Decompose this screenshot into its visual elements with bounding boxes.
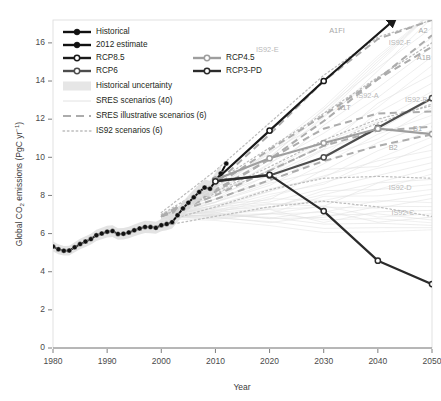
y-tick-label: 12 [36, 113, 46, 123]
sres-ensemble-line [161, 108, 432, 219]
data-point-marker [186, 200, 191, 205]
legend-label: SRES illustrative scenarios (6) [96, 111, 207, 120]
data-point-marker [94, 233, 99, 238]
data-point-marker [99, 231, 104, 236]
legend-swatch-marker [204, 68, 209, 73]
data-point-marker [115, 231, 120, 236]
scenario-node-marker [321, 208, 326, 213]
data-point-marker [208, 186, 213, 191]
data-point-marker [132, 228, 137, 233]
scenario-node-marker [375, 126, 380, 131]
legend-label: SRES scenarios (40) [96, 96, 173, 105]
x-axis-title: Year [233, 382, 250, 392]
data-point-marker [197, 190, 202, 195]
annotation-is92-e: IS92-E [256, 45, 279, 54]
data-point-marker [78, 242, 83, 247]
y-tick-label: 4 [40, 266, 45, 276]
scenario-node-marker [429, 282, 434, 287]
legend-label: RCP4.5 [226, 53, 255, 62]
annotation-is92-d: IS92-D [389, 183, 412, 192]
data-point-marker [159, 223, 164, 228]
x-tick-label: 2050 [423, 356, 441, 366]
legend-label: RCP8.5 [96, 53, 125, 62]
scenario-node-marker [429, 131, 434, 136]
y-tick-label: 14 [36, 75, 46, 85]
x-tick-label: 2000 [152, 356, 171, 366]
x-tick-label: 2020 [260, 356, 279, 366]
data-point-marker [83, 239, 88, 244]
legend-label: Historical [96, 27, 130, 36]
legend-item-historical-uncertainty[interactable]: Historical uncertainty [63, 81, 173, 90]
y-tick-label: 0 [40, 342, 45, 352]
data-point-marker [72, 245, 77, 250]
figure-co2-emissions-scenarios: 0246810121416198019902000201020202030204… [0, 0, 441, 401]
annotation-b2: B2 [389, 143, 398, 152]
legend-item-rcp4-5[interactable]: RCP4.5 [193, 53, 255, 62]
legend-item-rcp3-pd[interactable]: RCP3-PD [193, 66, 262, 75]
data-point-marker [110, 229, 115, 234]
annotation-a1t: A1T [337, 103, 351, 112]
legend-swatch-band [63, 82, 91, 91]
scenario-node-marker [321, 78, 326, 83]
scenario-node-marker [267, 128, 272, 133]
annotation-is92-c: IS92-C [391, 208, 415, 217]
scenario-node-marker [429, 96, 434, 101]
legend-item-historical[interactable]: Historical [63, 27, 130, 36]
annotation-b1: B1 [413, 124, 422, 133]
y-tick-label: 2 [40, 304, 45, 314]
legend-item-is92-scenarios-6-[interactable]: IS92 scenarios (6) [63, 126, 163, 135]
annotation-a1b: A1B [417, 53, 431, 62]
legend-swatch-marker [74, 42, 80, 48]
y-tick-label: 16 [36, 37, 46, 47]
x-tick-label: 2040 [368, 356, 387, 366]
data-point-marker [51, 244, 56, 249]
data-point-marker [180, 206, 185, 211]
data-point-marker [56, 247, 61, 252]
annotation-is92-a: IS92-A [356, 91, 379, 100]
data-point-marker [137, 226, 142, 231]
y-tick-label: 10 [36, 152, 46, 162]
x-tick-label: 2030 [314, 356, 333, 366]
y-tick-label: 8 [40, 190, 45, 200]
legend-swatch-marker [74, 29, 80, 35]
x-tick-label: 1990 [98, 356, 117, 366]
legend-swatch-marker [74, 68, 79, 73]
scenario-node-marker [321, 155, 326, 160]
data-point-marker [224, 161, 229, 166]
legend-item-rcp8-5[interactable]: RCP8.5 [63, 53, 125, 62]
data-point-marker [143, 224, 148, 229]
data-point-marker [61, 248, 66, 253]
scenario-node-marker [375, 258, 380, 263]
legend-item-sres-illustrative-scenarios-6-[interactable]: SRES illustrative scenarios (6) [63, 111, 207, 120]
x-tick-label: 2010 [206, 356, 225, 366]
data-point-marker [148, 225, 153, 230]
data-point-marker [88, 237, 93, 242]
legend-swatch-marker [204, 55, 209, 60]
data-point-marker [121, 231, 126, 236]
scenario-node-marker [213, 179, 218, 184]
y-tick-label: 6 [40, 228, 45, 238]
annotation-a1fi: A1FI [329, 26, 345, 35]
scenario-node-marker [267, 172, 272, 177]
chart-canvas: 0246810121416198019902000201020202030204… [0, 0, 441, 401]
data-point-marker [105, 229, 110, 234]
annotation-is92-b: IS92-B [405, 95, 428, 104]
legend-swatch-marker [74, 55, 79, 60]
legend-label: RCP6 [96, 66, 118, 75]
scenario-node-marker [267, 156, 272, 161]
legend-label: Historical uncertainty [96, 81, 173, 90]
series-line-historical [53, 174, 221, 251]
x-tick-label: 1980 [44, 356, 63, 366]
data-point-marker [153, 225, 158, 230]
data-point-marker [126, 230, 131, 235]
data-point-marker [191, 195, 196, 200]
sres-ensemble-line [161, 215, 432, 225]
legend-item-2012-estimate[interactable]: 2012 estimate [63, 40, 148, 49]
scenario-node-marker [321, 140, 326, 145]
legend-item-rcp6[interactable]: RCP6 [63, 66, 118, 75]
annotation-a2: A2 [418, 26, 427, 35]
legend-item-sres-scenarios-40-[interactable]: SRES scenarios (40) [63, 96, 173, 105]
legend-label: IS92 scenarios (6) [96, 126, 163, 135]
data-point-marker [164, 222, 169, 227]
data-point-marker [170, 220, 175, 225]
